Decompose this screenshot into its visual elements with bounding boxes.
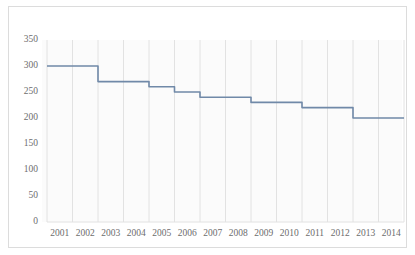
y-tick-label: 150 [12, 139, 38, 149]
line-chart [0, 0, 415, 255]
y-tick-label: 300 [12, 61, 38, 71]
y-tick-label: 200 [12, 113, 38, 123]
y-tick-label: 350 [12, 35, 38, 45]
plot-area-background [42, 40, 402, 222]
y-tick-label: 0 [12, 217, 38, 227]
y-tick-label: 100 [12, 165, 38, 175]
x-tick-label: 2014 [376, 229, 406, 239]
y-tick-label: 50 [12, 191, 38, 201]
y-tick-label: 250 [12, 87, 38, 97]
